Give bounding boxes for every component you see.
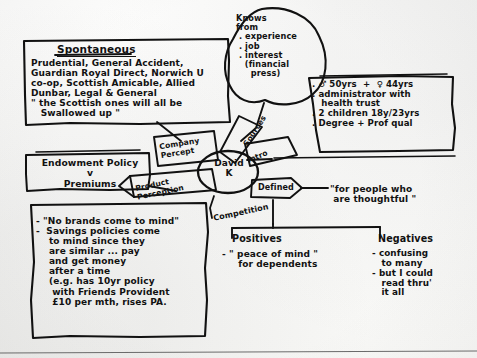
negatives-title: Negatives — [378, 234, 433, 245]
positives-body: - " peace of mind " for dependents — [222, 249, 318, 269]
positives-title: Positives — [232, 234, 282, 245]
spontaneous-body: Prudential, General Accident, Guardian R… — [31, 58, 204, 118]
endowment-topline — [36, 150, 140, 152]
demographics-underline-bottom — [274, 156, 455, 158]
knows-cloud-text: Knows from . experience . job . interest… — [236, 14, 297, 78]
center-node-label: DavidK — [205, 158, 253, 179]
scan-edge-line — [0, 351, 477, 353]
demographics-text: . ♂ 50yrs + ♀ 44yrs . administrator with… — [312, 80, 419, 128]
product-perception-text: - "No brands come to mind" - Savings pol… — [36, 216, 179, 307]
mindmap-canvas: Spontaneous Prudential, General Accident… — [0, 0, 477, 358]
tree-crossbar — [232, 227, 380, 228]
endowment-text: Endowment Policy v Premiums — [30, 158, 150, 189]
negatives-body: - confusing to many - but I could read t… — [372, 249, 433, 298]
defined-quote-text: "for people who are thoughtful " — [330, 184, 416, 204]
spontaneous-title: Spontaneous — [57, 44, 136, 56]
spontaneous-tail — [157, 122, 181, 141]
branch-label-defined: Defined — [258, 184, 294, 193]
